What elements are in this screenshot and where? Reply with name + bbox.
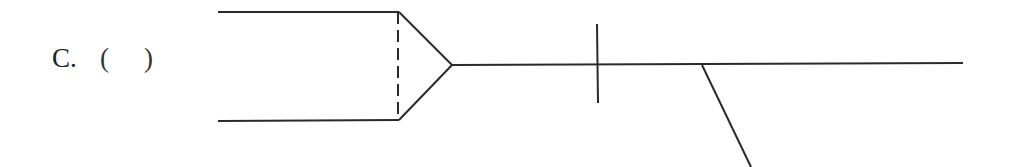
tick-mark-line	[597, 24, 598, 103]
arrow-upper-line	[399, 12, 452, 65]
arrow-lower-line	[399, 65, 452, 120]
main-spine-line	[452, 63, 963, 65]
branch-line	[702, 65, 751, 167]
bottom-edge-line	[218, 120, 399, 121]
fishbone-diagram	[0, 0, 1014, 167]
